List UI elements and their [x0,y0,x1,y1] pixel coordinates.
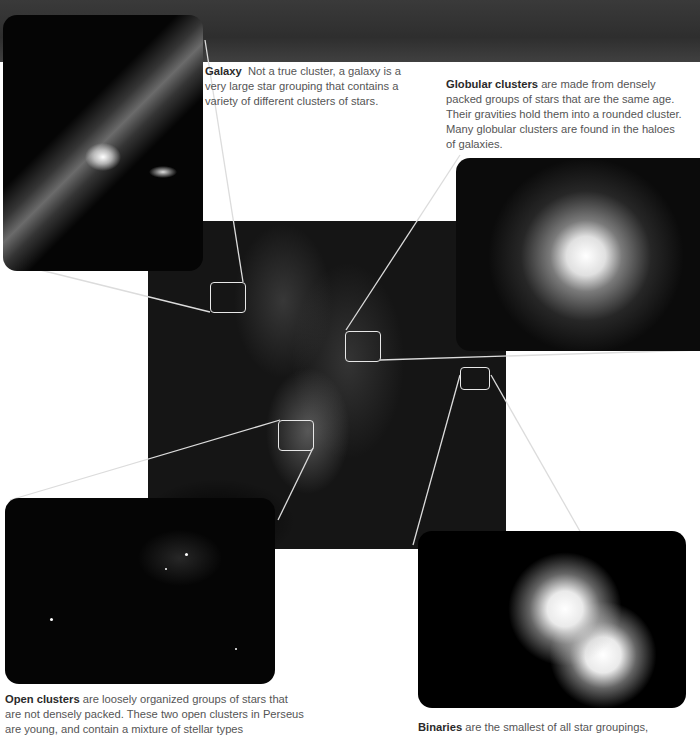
star [185,553,188,556]
star [165,568,167,570]
open-caption: Open clusters are loosely organized grou… [5,692,305,737]
star [50,618,53,621]
galaxy-caption: Galaxy Not a true cluster, a galaxy is a… [205,64,405,109]
open-cluster-panel [5,498,275,684]
globular-caption: Globular clusters are made from densely … [446,77,686,152]
galaxy-panel [3,15,203,271]
binaries-caption: Binaries are the smallest of all star gr… [418,720,700,735]
binaries-description: are the smallest of all star groupings, [465,721,648,733]
binaries-label: Binaries [418,721,462,733]
galaxy-label: Galaxy [205,65,242,77]
globular-label: Globular clusters [446,78,538,90]
globular-cluster-panel [456,158,700,351]
binaries-panel [418,531,686,708]
open-label: Open clusters [5,693,80,705]
star [235,648,237,650]
